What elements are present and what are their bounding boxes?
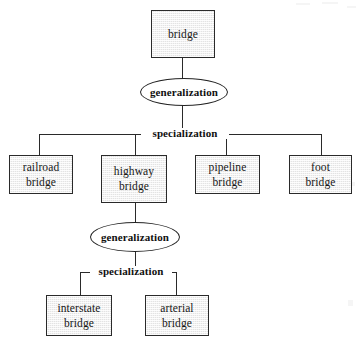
scan-speckle	[348, 300, 353, 306]
drop-to-interstate-bridge	[80, 272, 81, 295]
entity-highway-bridge-label: highwaybridge	[114, 164, 154, 193]
relationship-generalization-bottom[interactable]: generalization	[90, 222, 180, 252]
label-specialization-bottom-text: specialization	[99, 265, 164, 277]
relationship-generalization-top[interactable]: generalization	[140, 78, 228, 106]
entity-pipeline-bridge[interactable]: pipelinebridge	[195, 155, 260, 194]
entity-interstate-bridge[interactable]: interstatebridge	[46, 295, 112, 336]
entity-highway-bridge[interactable]: highwaybridge	[101, 155, 167, 203]
entity-bridge[interactable]: bridge	[151, 10, 215, 58]
drop-to-railroad-bridge	[39, 134, 40, 156]
specialization-bus-left	[39, 134, 140, 135]
entity-foot-bridge[interactable]: footbridge	[289, 155, 352, 194]
entity-railroad-bridge-label: railroadbridge	[23, 160, 60, 189]
connector-bridge-to-generalization	[182, 58, 183, 79]
entity-arterial-bridge-label: arterialbridge	[160, 301, 193, 330]
relationship-generalization-bottom-label: generalization	[101, 231, 169, 243]
entity-railroad-bridge[interactable]: railroadbridge	[9, 155, 73, 194]
specialization-bus-right	[225, 134, 322, 135]
scan-speckle	[296, 3, 310, 5]
scan-speckle	[347, 6, 356, 8]
drop-to-foot-bridge	[321, 134, 322, 156]
label-specialization-top-text: specialization	[153, 127, 218, 139]
entity-bridge-label: bridge	[168, 27, 198, 42]
connector-highway-to-generalization	[135, 203, 136, 223]
scan-speckle	[322, 2, 338, 4]
entity-arterial-bridge[interactable]: arterialbridge	[145, 295, 209, 336]
drop-to-arterial-bridge	[176, 272, 177, 295]
label-specialization-top: specialization	[141, 128, 229, 139]
relationship-generalization-top-label: generalization	[150, 86, 218, 98]
label-specialization-bottom: specialization	[90, 266, 172, 277]
entity-pipeline-bridge-label: pipelinebridge	[209, 160, 247, 189]
entity-interstate-bridge-label: interstatebridge	[57, 301, 100, 330]
entity-foot-bridge-label: footbridge	[306, 160, 336, 189]
diagram-canvas: bridge railroadbridge highwaybridge pipe…	[0, 0, 363, 350]
drop-to-highway-bridge	[135, 134, 136, 156]
